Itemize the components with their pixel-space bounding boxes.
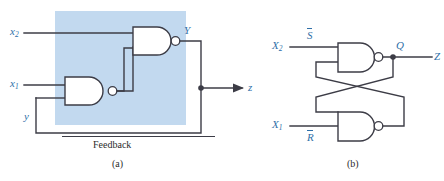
label-x2: x2: [10, 25, 19, 39]
label-Q: Q: [396, 39, 404, 51]
label-X2: X2: [272, 39, 282, 53]
caption-b: (b): [347, 158, 359, 169]
arrowhead-z: [233, 84, 244, 93]
bubble-nand-top-b: [374, 53, 383, 62]
caption-a: (a): [112, 158, 123, 169]
junction-dot-Q: [390, 54, 396, 60]
gate-nand-upper-body: [133, 27, 171, 55]
label-Y: Y: [184, 24, 190, 36]
label-x1: x1: [10, 77, 19, 91]
gate-nand-bottom-body: [338, 112, 375, 141]
overbar-S: [307, 28, 312, 29]
gate-nand-top-body: [338, 43, 374, 72]
label-Z: Z: [434, 50, 440, 62]
junction-dot-z: [198, 85, 204, 91]
gate-nand-lower-body: [65, 77, 103, 105]
label-y: y: [24, 110, 29, 122]
label-R-bar: R: [307, 131, 314, 143]
label-S-bar: S: [307, 29, 313, 41]
label-z: z: [248, 81, 252, 93]
bubble-nand-lower-a: [108, 87, 117, 96]
circuit-diagram-svg: [0, 0, 444, 181]
label-feedback: Feedback: [93, 139, 131, 150]
overbar-R: [307, 130, 313, 131]
bubble-nand-bottom-b: [374, 122, 383, 131]
figure-container: x2 x1 y Y z Feedback (a) X2 X1 S R Q Z (…: [0, 0, 444, 181]
label-X1: X1: [272, 118, 282, 132]
shaded-feedback-region: [55, 11, 186, 125]
bubble-nand-upper-a: [171, 37, 180, 46]
